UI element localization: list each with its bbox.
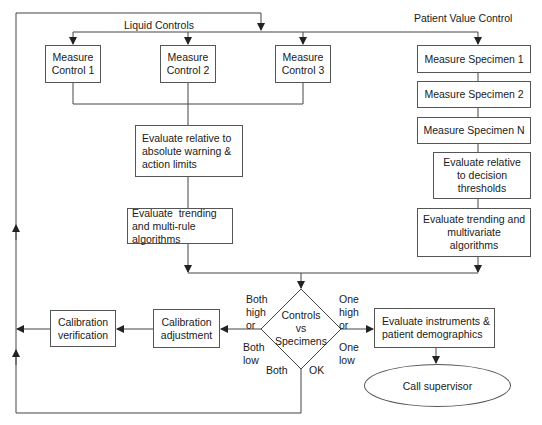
box-text: Control 3 xyxy=(282,64,325,77)
one-low-label: One low xyxy=(339,341,359,367)
box-text: Calibration verification xyxy=(51,316,115,342)
measure-specimen-2-box: Measure Specimen 2 xyxy=(417,81,531,108)
diamond-text: vs xyxy=(266,322,336,335)
evaluate-instruments-box: Evaluate instruments & patient demograph… xyxy=(374,308,495,348)
call-supervisor-ellipse: Call supervisor xyxy=(364,364,511,407)
measure-specimen-n-box: Measure Specimen N xyxy=(417,117,531,144)
box-text: Measure Specimen 2 xyxy=(424,88,523,101)
measure-specimen-1-box: Measure Specimen 1 xyxy=(417,45,531,73)
box-text: Control 2 xyxy=(167,64,210,77)
measure-control-2-box: Measure Control 2 xyxy=(160,45,216,83)
decision-diamond-label: Controls vs Specimens xyxy=(266,309,336,348)
box-text: Evaluate trending and multi-rule algorit… xyxy=(132,207,232,246)
box-text: Measure Specimen N xyxy=(424,124,525,137)
one-high-label: One high or xyxy=(339,293,359,332)
evaluate-multivariate-box: Evaluate trending and multivariate algor… xyxy=(417,208,531,257)
box-text: Evaluate instruments & patient demograph… xyxy=(382,315,494,341)
evaluate-decision-thresholds-box: Evaluate relative to decision thresholds xyxy=(433,152,531,199)
measure-control-1-box: Measure Control 1 xyxy=(45,45,101,83)
box-text: Calibration adjustment xyxy=(154,316,219,342)
box-text: Measure xyxy=(168,51,209,64)
ok-label: OK xyxy=(309,364,324,377)
diamond-text: Controls xyxy=(266,309,336,322)
calibration-adjustment-box: Calibration adjustment xyxy=(153,309,220,348)
evaluate-absolute-limits-box: Evaluate relative to absolute warning & … xyxy=(135,125,243,177)
diamond-text: Specimens xyxy=(266,335,336,348)
liquid-controls-label: Liquid Controls xyxy=(124,19,194,32)
box-text: Evaluate relative to absolute warning & … xyxy=(142,132,238,171)
evaluate-multirule-box: Evaluate trending and multi-rule algorit… xyxy=(127,208,233,244)
box-text: Measure xyxy=(53,51,94,64)
box-text: Control 1 xyxy=(52,64,95,77)
patient-value-control-label: Patient Value Control xyxy=(414,12,512,25)
both-low-label: Both low xyxy=(243,341,265,367)
box-text: Measure Specimen 1 xyxy=(424,53,523,66)
measure-control-3-box: Measure Control 3 xyxy=(275,45,331,83)
ellipse-text: Call supervisor xyxy=(403,380,472,392)
box-text: Measure xyxy=(283,51,324,64)
calibration-verification-box: Calibration verification xyxy=(50,310,116,347)
both-high-label: Both high or xyxy=(246,293,268,332)
box-text: Evaluate trending and multivariate algor… xyxy=(422,213,526,252)
both-label: Both xyxy=(266,364,288,377)
box-text: Evaluate relative to decision thresholds xyxy=(438,156,526,195)
